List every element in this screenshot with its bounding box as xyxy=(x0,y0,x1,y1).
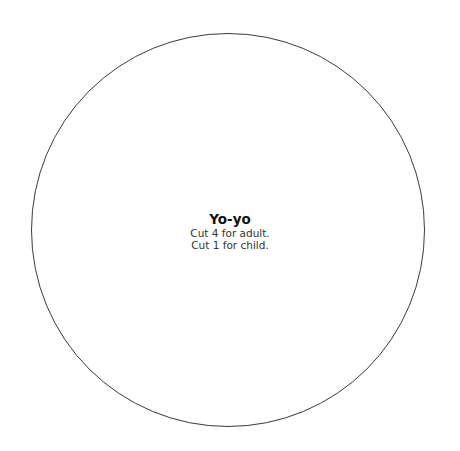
pattern-title: Yo-yo xyxy=(0,212,460,227)
instruction-adult: Cut 4 for adult. xyxy=(0,227,460,239)
pattern-label: Yo-yo Cut 4 for adult. Cut 1 for child. xyxy=(0,212,460,251)
instruction-child: Cut 1 for child. xyxy=(0,239,460,251)
